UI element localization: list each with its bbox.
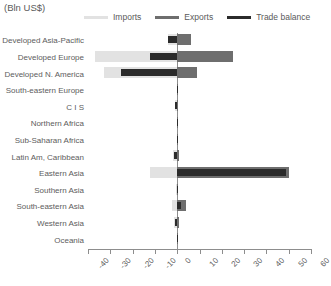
- chart-title: (Bln US$): [4, 2, 45, 13]
- chart-row: [88, 183, 311, 200]
- chart-row: [88, 133, 311, 150]
- x-axis-tick: [222, 249, 223, 254]
- legend-item-trade-balance: Trade balance: [227, 13, 310, 22]
- x-axis-tick-label: 0: [183, 256, 193, 266]
- x-axis-tick-label: 10: [207, 256, 220, 269]
- category-label: Eastern Asia: [39, 169, 84, 179]
- category-label: Developed Europe: [18, 53, 84, 63]
- x-axis-tick-label: 40: [274, 256, 287, 269]
- bar-trade-balance: [177, 169, 286, 176]
- bar-trade-balance: [177, 119, 178, 126]
- chart-row: [88, 232, 311, 249]
- category-axis-labels: Developed Asia-PacificDeveloped EuropeDe…: [0, 33, 84, 249]
- chart-row: [88, 199, 311, 216]
- chart-row: [88, 216, 311, 233]
- bar-trade-balance: [175, 219, 178, 226]
- category-label: South-eastern Europe: [6, 86, 84, 96]
- x-axis-tick-label: 60: [319, 256, 331, 269]
- bar-trade-balance: [121, 69, 177, 76]
- category-label: South-eastern Asia: [16, 202, 84, 212]
- chart-row: [88, 33, 311, 50]
- x-axis-tick: [133, 249, 134, 254]
- legend-swatch-icon: [84, 16, 108, 19]
- bar-trade-balance: [177, 202, 180, 209]
- bar-trade-balance: [177, 186, 178, 193]
- category-label: Sub-Saharan Africa: [15, 136, 84, 146]
- chart-row: [88, 66, 311, 83]
- legend-item-exports: Exports: [155, 13, 213, 22]
- x-axis-tick: [110, 249, 111, 254]
- chart-row: [88, 116, 311, 133]
- category-label: Western Asia: [37, 219, 84, 229]
- chart-legend: ImportsExportsTrade balance: [84, 13, 310, 22]
- bar-trade-balance: [175, 102, 177, 109]
- chart-row: [88, 149, 311, 166]
- x-axis-tick-label: -10: [163, 256, 178, 271]
- bar-imports: [150, 167, 177, 178]
- bar-exports: [177, 217, 179, 228]
- plot-area: [88, 33, 311, 249]
- x-axis-tick-label: 30: [252, 256, 265, 269]
- x-axis-tick: [155, 249, 156, 254]
- bar-exports: [177, 100, 178, 111]
- x-axis-tick: [266, 249, 267, 254]
- bar-trade-balance: [174, 152, 177, 159]
- bar-trade-balance: [177, 136, 178, 143]
- x-axis-tick: [88, 249, 89, 254]
- x-axis-tick-label: -30: [119, 256, 134, 271]
- bar-trade-balance: [150, 53, 177, 60]
- bar-trade-balance: [168, 36, 177, 43]
- category-label: Latin Am, Caribbean: [12, 153, 85, 163]
- category-label: Southern Asia: [34, 186, 84, 196]
- category-label: C I S: [66, 103, 84, 113]
- x-axis-tick: [289, 249, 290, 254]
- legend-label: Trade balance: [256, 13, 310, 22]
- x-axis-tick: [311, 249, 312, 254]
- legend-label: Exports: [184, 13, 213, 22]
- category-label: Oceania: [54, 236, 84, 246]
- bar-exports: [177, 67, 197, 78]
- x-axis-tick-label: 50: [296, 256, 309, 269]
- legend-swatch-icon: [155, 16, 179, 19]
- chart-row: [88, 83, 311, 100]
- legend-swatch-icon: [227, 16, 251, 19]
- x-axis-tick: [200, 249, 201, 254]
- x-axis-tick-label: -40: [96, 256, 111, 271]
- bar-trade-balance: [177, 235, 178, 242]
- category-label: Northern Africa: [31, 119, 84, 129]
- bar-exports: [177, 150, 179, 161]
- bar-trade-balance: [177, 86, 178, 93]
- x-axis-tick-label: -20: [141, 256, 156, 271]
- bar-exports: [177, 51, 233, 62]
- chart-row: [88, 99, 311, 116]
- chart-row: [88, 50, 311, 67]
- category-label: Developed Asia-Pacific: [2, 36, 84, 46]
- x-axis-tick: [244, 249, 245, 254]
- legend-item-imports: Imports: [84, 13, 141, 22]
- category-label: Developed N. America: [4, 70, 84, 80]
- x-axis-tick-label: 20: [229, 256, 242, 269]
- x-axis-tick: [177, 249, 178, 254]
- bar-exports: [177, 34, 190, 45]
- legend-label: Imports: [113, 13, 141, 22]
- chart-row: [88, 166, 311, 183]
